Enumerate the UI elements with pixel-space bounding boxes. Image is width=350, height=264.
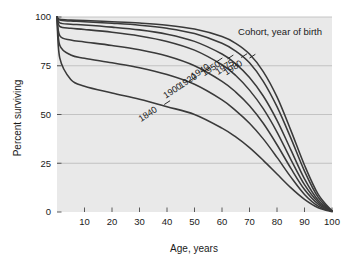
x-tick-label-40: 40 xyxy=(162,216,173,227)
x-tick-label-80: 80 xyxy=(272,216,283,227)
x-tick-label-10: 10 xyxy=(79,216,90,227)
y-tick-label-0: 0 xyxy=(46,206,51,217)
x-tick-label-20: 20 xyxy=(107,216,118,227)
y-axis-title: Percent surviving xyxy=(12,80,23,157)
x-axis-title: Age, years xyxy=(170,243,218,254)
x-tick-label-30: 30 xyxy=(134,216,145,227)
y-tick-labels-group: 0255075100 xyxy=(35,11,51,217)
x-tick-label-70: 70 xyxy=(244,216,255,227)
x-tick-label-50: 50 xyxy=(189,216,200,227)
survival-curve-figure: 102030405060708090100 0255075100 1980197… xyxy=(0,0,350,264)
y-tick-label-25: 25 xyxy=(40,158,51,169)
chart-canvas: 102030405060708090100 0255075100 1980197… xyxy=(0,0,350,264)
y-tick-label-100: 100 xyxy=(35,11,51,22)
y-tick-label-50: 50 xyxy=(40,109,51,120)
x-tick-label-100: 100 xyxy=(324,216,340,227)
legend-title: Cohort, year of birth xyxy=(238,26,322,37)
x-tick-label-90: 90 xyxy=(299,216,310,227)
x-tick-label-60: 60 xyxy=(217,216,228,227)
x-tick-labels-group: 102030405060708090100 xyxy=(79,216,340,227)
y-tick-label-75: 75 xyxy=(40,60,51,71)
